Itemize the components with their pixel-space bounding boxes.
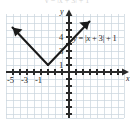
y-tick-label-1: 1 [59, 61, 63, 70]
axes [6, 16, 122, 118]
equation-inner-tail: + 3 [90, 33, 103, 43]
grid-lines [6, 14, 124, 118]
curve-right-arrowhead [79, 22, 89, 31]
y-axis-name-label: y [60, 8, 63, 16]
absolute-value-graph-figure: y = |x + 3| + 1 [0, 0, 134, 131]
x-tick-label-minus-1: -1 [35, 76, 42, 85]
y-tick-label-4: 4 [59, 33, 63, 42]
equation-equals: = [77, 33, 85, 43]
x-axis-name-label: x [126, 75, 129, 83]
plot-canvas [0, 0, 134, 131]
equation-tail: + 1 [104, 33, 117, 43]
equation-annotation: y = |x + 3| + 1 [73, 34, 117, 43]
absolute-value-curve [13, 22, 90, 66]
y-axis-arrowhead [66, 10, 73, 17]
x-tick-label-minus-3: -3 [21, 76, 28, 85]
y-tick-label-3: 3 [59, 47, 63, 56]
x-tick-label-minus-5: -5 [7, 76, 14, 85]
